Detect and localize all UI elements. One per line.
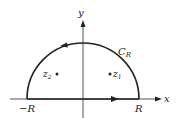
z2-label: z2	[42, 69, 52, 80]
pole-z2	[56, 73, 59, 76]
neg-r-label: −R	[19, 103, 35, 114]
x-axis-label: x	[164, 93, 170, 104]
pole-z1	[109, 73, 112, 76]
contour-diagram: y x CR z2 z1 −R R	[0, 0, 176, 118]
x-axis-arrow-icon	[155, 97, 162, 102]
segment-direction-arrow-icon	[111, 96, 119, 102]
y-axis-arrow-icon	[81, 20, 86, 27]
pos-r-label: R	[134, 103, 143, 114]
y-axis-label: y	[77, 7, 84, 18]
z1-label: z1	[112, 69, 122, 80]
